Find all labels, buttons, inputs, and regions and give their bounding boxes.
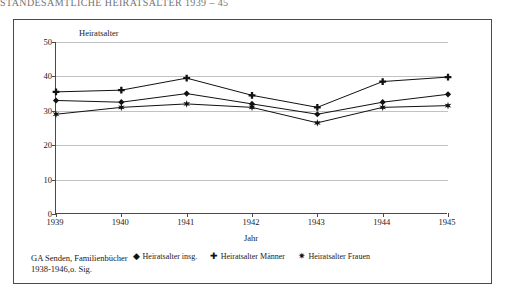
diamond-data-point [53, 97, 59, 103]
source-note: GA Senden, Familienbücher 1938-1946,o. S… [31, 253, 128, 275]
source-note-line-2: 1938-1946,o. Sig. [31, 264, 128, 275]
x-axis-title: Jahr [55, 234, 447, 243]
x-axis-tick-label: 1941 [166, 218, 206, 227]
x-axis-tick-labels: 1939194019411942194319441945 [55, 218, 447, 230]
running-page-header: STANDESAMTLICHE HEIRATSALTER 1939 – 45 [0, 0, 505, 9]
legend-label: Heiratsalter Männer [221, 252, 285, 261]
plus-marker-icon: ✚ [210, 252, 218, 261]
x-axis-tick-label: 1942 [231, 218, 271, 227]
x-axis-tick-label: 1945 [427, 218, 467, 227]
diamond-data-point [445, 91, 451, 97]
legend-entry: ✷Heiratsalter Frauen [298, 252, 370, 261]
series-star [53, 100, 452, 127]
legend-entry: ◆Heiratsalter insg. [132, 252, 197, 261]
plot-container: Heiratsalter 01020304050 193919401941194… [55, 42, 447, 214]
plus-data-point [53, 88, 60, 95]
diamond-marker-icon: ◆ [132, 252, 140, 261]
x-axis-tick-label: 1943 [296, 218, 336, 227]
star-data-point [314, 119, 321, 127]
y-axis-tick-label: 20 [30, 141, 52, 150]
figure-frame: Heiratsalter 01020304050 193919401941194… [13, 19, 492, 284]
y-axis-tick-label: 10 [30, 176, 52, 185]
y-axis-tick-label: 40 [30, 72, 52, 81]
y-axis-title: Heiratsalter [79, 29, 119, 38]
y-axis-tick-labels: 01020304050 [26, 42, 52, 214]
y-axis-tick-label: 50 [30, 38, 52, 47]
plus-data-point [379, 78, 386, 85]
x-axis-tick-label: 1940 [100, 218, 140, 227]
diamond-data-point [314, 111, 320, 117]
x-axis-tick-label: 1944 [362, 218, 402, 227]
source-note-line-1: GA Senden, Familienbücher [31, 253, 128, 264]
plus-data-point [445, 74, 452, 81]
plus-data-point [118, 87, 125, 94]
legend-label: Heiratsalter Frauen [308, 252, 370, 261]
diamond-data-point [184, 91, 190, 97]
plus-data-point [183, 75, 190, 82]
plot-area [55, 42, 447, 214]
y-axis-tick-label: 30 [30, 107, 52, 116]
plus-data-point [249, 92, 256, 99]
legend-entry: ✚Heiratsalter Männer [210, 252, 285, 261]
plus-data-point [314, 104, 321, 111]
legend-label: Heiratsalter insg. [143, 252, 198, 261]
chart-series-svg [56, 42, 448, 214]
star-marker-icon: ✷ [298, 252, 306, 261]
x-axis-tick-label: 1939 [35, 218, 75, 227]
